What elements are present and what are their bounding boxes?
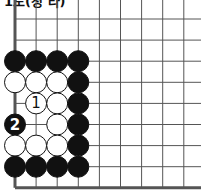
black-stone[interactable]	[47, 51, 68, 72]
white-stone[interactable]	[5, 135, 26, 156]
white-stone[interactable]	[47, 135, 68, 156]
black-stone[interactable]	[68, 114, 89, 135]
black-stone[interactable]	[68, 93, 89, 114]
black-stone[interactable]	[68, 72, 89, 93]
move-number: 1	[31, 94, 41, 112]
black-stone[interactable]	[26, 156, 47, 177]
white-stone[interactable]	[26, 135, 47, 156]
move-number: 2	[10, 116, 20, 134]
go-board[interactable]: 12	[0, 0, 201, 191]
white-stone[interactable]	[5, 72, 26, 93]
white-stone[interactable]	[47, 72, 68, 93]
black-stone[interactable]	[68, 135, 89, 156]
white-stone[interactable]	[47, 93, 68, 114]
black-stone[interactable]	[26, 51, 47, 72]
white-stone[interactable]: 1	[26, 93, 47, 114]
white-stone[interactable]	[26, 72, 47, 93]
black-stone[interactable]	[68, 51, 89, 72]
black-stone[interactable]: 2	[5, 114, 26, 135]
black-stone[interactable]	[47, 156, 68, 177]
black-stone[interactable]	[68, 156, 89, 177]
black-stone[interactable]	[5, 156, 26, 177]
black-stone[interactable]	[5, 51, 26, 72]
white-stone[interactable]	[47, 114, 68, 135]
